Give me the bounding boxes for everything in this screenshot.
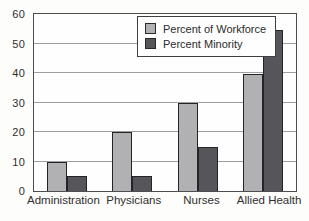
- y-tick-label-20: 20: [12, 127, 25, 138]
- bar-percent-of-workforce-allied-health: [243, 74, 263, 191]
- legend-item-minority: Percent Minority: [145, 36, 266, 51]
- legend-item-workforce: Percent of Workforce: [145, 21, 266, 36]
- y-tick-label-30: 30: [12, 97, 25, 108]
- legend: Percent of Workforce Percent Minority: [137, 16, 276, 57]
- legend-label-minority: Percent Minority: [163, 38, 242, 50]
- minority-swatch-icon: [145, 38, 156, 49]
- bar-percent-of-workforce-administration: [47, 162, 67, 192]
- bar-percent-of-workforce-physicians: [112, 132, 132, 191]
- bar-percent-of-workforce-nurses: [178, 103, 198, 192]
- legend-label-workforce: Percent of Workforce: [163, 23, 266, 35]
- bar-chart-figure: 0102030405060 Percent of Workforce Perce…: [0, 0, 309, 221]
- plot-area: Percent of Workforce Percent Minority: [33, 13, 297, 192]
- y-tick-label-10: 10: [12, 156, 25, 167]
- y-axis: 0102030405060: [0, 14, 28, 191]
- x-axis: AdministrationPhysiciansNursesAllied Hea…: [27, 194, 303, 206]
- workforce-swatch-icon: [145, 23, 156, 34]
- bar-percent-minority-physicians: [132, 176, 152, 191]
- x-tick-label-physicians: Physicians: [100, 194, 168, 206]
- bar-group-administration: [34, 14, 100, 191]
- y-tick-label-0: 0: [19, 186, 25, 197]
- x-tick-label-nurses: Nurses: [168, 194, 236, 206]
- y-tick-label-60: 60: [12, 9, 25, 20]
- bar-percent-minority-administration: [67, 176, 87, 191]
- x-tick-label-allied-health: Allied Health: [235, 194, 303, 206]
- y-tick-label-40: 40: [12, 68, 25, 79]
- y-tick-label-50: 50: [12, 38, 25, 49]
- x-tick-label-administration: Administration: [27, 194, 100, 206]
- bar-percent-minority-nurses: [198, 147, 218, 191]
